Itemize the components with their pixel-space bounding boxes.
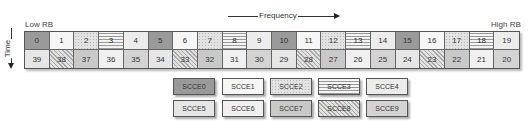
legend-item-scce7: SCCE7 bbox=[270, 100, 312, 117]
legend-item-scce4: SCCE4 bbox=[366, 78, 408, 95]
resource-block-cell: 18 bbox=[470, 32, 495, 50]
resource-block-cell: 37 bbox=[74, 50, 99, 68]
resource-block-cell: 30 bbox=[247, 50, 272, 68]
resource-block-cell: 4 bbox=[124, 32, 149, 50]
resource-block-cell: 23 bbox=[420, 50, 445, 68]
resource-block-cell: 32 bbox=[198, 50, 223, 68]
low-rb-label: Low RB bbox=[25, 20, 53, 29]
resource-block-cell: 31 bbox=[223, 50, 248, 68]
resource-block-cell: 8 bbox=[223, 32, 248, 50]
arrow-down-icon bbox=[8, 63, 14, 69]
resource-block-cell: 29 bbox=[272, 50, 297, 68]
resource-block-grid: 0123456789101112131415161718193938373635… bbox=[24, 31, 520, 69]
resource-block-cell: 35 bbox=[124, 50, 149, 68]
time-label: Time bbox=[3, 39, 12, 58]
time-axis: Time bbox=[4, 26, 20, 70]
resource-block-cell: 27 bbox=[321, 50, 346, 68]
resource-block-cell: 3 bbox=[99, 32, 124, 50]
resource-block-cell: 7 bbox=[198, 32, 223, 50]
resource-block-cell: 24 bbox=[396, 50, 421, 68]
resource-block-cell: 26 bbox=[346, 50, 371, 68]
resource-block-cell: 38 bbox=[50, 50, 75, 68]
resource-block-cell: 39 bbox=[25, 50, 50, 68]
resource-block-cell: 6 bbox=[173, 32, 198, 50]
legend-item-scce6: SCCE6 bbox=[222, 100, 264, 117]
resource-block-cell: 17 bbox=[445, 32, 470, 50]
resource-block-cell: 11 bbox=[297, 32, 322, 50]
frequency-axis: Frequency bbox=[228, 11, 340, 21]
resource-block-cell: 28 bbox=[297, 50, 322, 68]
frequency-label: Frequency bbox=[258, 11, 298, 20]
legend-item-scce3: SCCE3 bbox=[318, 78, 360, 95]
legend-item-scce5: SCCE5 bbox=[173, 100, 215, 117]
legend-item-scce8: SCCE8 bbox=[318, 100, 360, 117]
resource-block-cell: 22 bbox=[445, 50, 470, 68]
resource-block-cell: 15 bbox=[396, 32, 421, 50]
resource-block-cell: 12 bbox=[321, 32, 346, 50]
high-rb-label: High RB bbox=[491, 20, 521, 29]
resource-block-cell: 1 bbox=[50, 32, 75, 50]
legend-item-scce9: SCCE9 bbox=[366, 100, 408, 117]
resource-block-cell: 34 bbox=[149, 50, 174, 68]
resource-block-cell: 14 bbox=[371, 32, 396, 50]
legend-item-scce0: SCCE0 bbox=[173, 78, 215, 95]
resource-block-cell: 10 bbox=[272, 32, 297, 50]
resource-block-cell: 33 bbox=[173, 50, 198, 68]
resource-block-cell: 9 bbox=[247, 32, 272, 50]
legend-item-scce2: SCCE2 bbox=[270, 78, 312, 95]
resource-block-cell: 21 bbox=[470, 50, 495, 68]
resource-block-cell: 5 bbox=[149, 32, 174, 50]
resource-block-cell: 36 bbox=[99, 50, 124, 68]
resource-block-cell: 2 bbox=[74, 32, 99, 50]
resource-block-cell: 0 bbox=[25, 32, 50, 50]
arrow-right-icon bbox=[334, 13, 340, 19]
resource-block-cell: 13 bbox=[346, 32, 371, 50]
resource-block-cell: 25 bbox=[371, 50, 396, 68]
resource-block-cell: 16 bbox=[420, 32, 445, 50]
resource-block-cell: 19 bbox=[494, 32, 519, 50]
resource-block-cell: 20 bbox=[494, 50, 519, 68]
legend-item-scce1: SCCE1 bbox=[222, 78, 264, 95]
